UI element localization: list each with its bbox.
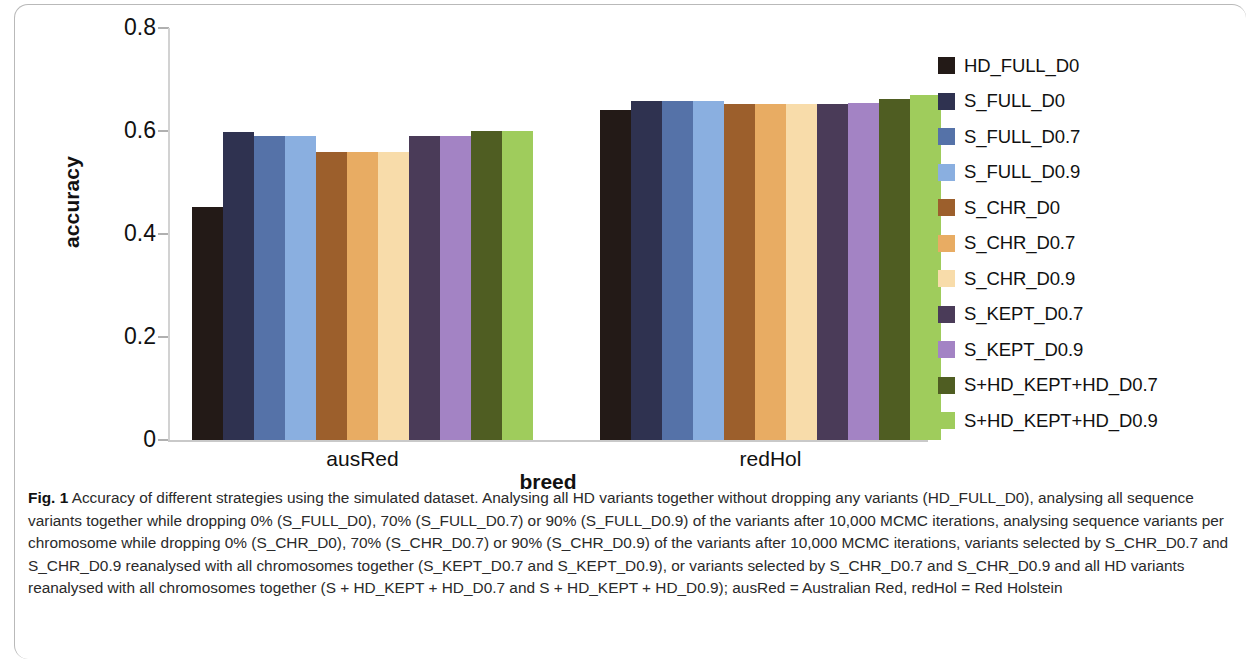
figure-number: Fig. 1 — [28, 489, 68, 506]
bar — [662, 101, 693, 440]
figure-caption-text: Accuracy of different strategies using t… — [28, 489, 1228, 596]
legend-label: S_FULL_D0.9 — [964, 161, 1080, 183]
legend-swatch-icon — [938, 306, 955, 323]
bar — [316, 152, 347, 440]
legend-item: S_KEPT_D0.9 — [938, 332, 1238, 368]
legend-swatch-icon — [938, 164, 955, 181]
chart-legend: HD_FULL_D0S_FULL_D0S_FULL_D0.7S_FULL_D0.… — [938, 48, 1238, 439]
y-axis-tick-label: 0 — [84, 428, 156, 451]
legend-item: S_CHR_D0 — [938, 190, 1238, 226]
y-axis-tick-label: 0.2 — [84, 325, 156, 348]
bar-group-redHol — [600, 28, 941, 440]
legend-swatch-icon — [938, 128, 955, 145]
figure-caption: Fig. 1 Accuracy of different strategies … — [28, 487, 1233, 600]
bar — [786, 104, 817, 440]
bar — [693, 101, 724, 440]
legend-label: S_KEPT_D0.7 — [964, 303, 1083, 325]
y-axis-tick-labels: 00.20.40.60.8 — [78, 0, 156, 486]
x-axis-category-label: ausRed — [192, 447, 533, 471]
bar — [409, 136, 440, 440]
legend-label: HD_FULL_D0 — [964, 55, 1079, 77]
bar — [378, 152, 409, 440]
bar — [631, 101, 662, 440]
legend-label: S+HD_KEPT+HD_D0.9 — [964, 410, 1158, 432]
bar — [817, 104, 848, 440]
y-axis-tick-label: 0.4 — [84, 222, 156, 245]
legend-item: S_CHR_D0.9 — [938, 261, 1238, 297]
legend-item: S+HD_KEPT+HD_D0.7 — [938, 368, 1238, 404]
legend-item: S_KEPT_D0.7 — [938, 297, 1238, 333]
legend-swatch-icon — [938, 93, 955, 110]
legend-item: S_FULL_D0.9 — [938, 155, 1238, 191]
bar — [254, 136, 285, 440]
legend-swatch-icon — [938, 377, 955, 394]
bar — [879, 99, 910, 440]
legend-label: S+HD_KEPT+HD_D0.7 — [964, 374, 1158, 396]
legend-item: S_FULL_D0 — [938, 84, 1238, 120]
bar-chart: accuracy 00.20.40.60.8 ausRedredHol bree… — [0, 0, 1250, 486]
legend-swatch-icon — [938, 235, 955, 252]
bar — [600, 110, 631, 440]
legend-item: S_FULL_D0.7 — [938, 119, 1238, 155]
legend-label: S_CHR_D0.9 — [964, 268, 1075, 290]
bar — [285, 136, 316, 440]
legend-item: HD_FULL_D0 — [938, 48, 1238, 84]
legend-item: S_CHR_D0.7 — [938, 226, 1238, 262]
bar — [755, 104, 786, 440]
bar — [502, 131, 533, 440]
bar — [471, 131, 502, 440]
bar — [440, 136, 471, 440]
bar — [223, 132, 254, 440]
legend-swatch-icon — [938, 57, 955, 74]
legend-label: S_FULL_D0.7 — [964, 126, 1080, 148]
legend-swatch-icon — [938, 341, 955, 358]
legend-label: S_KEPT_D0.9 — [964, 339, 1083, 361]
y-axis-tick-label: 0.8 — [84, 16, 156, 39]
legend-label: S_CHR_D0.7 — [964, 232, 1075, 254]
legend-label: S_CHR_D0 — [964, 197, 1060, 219]
x-axis-category-label: redHol — [600, 447, 941, 471]
legend-swatch-icon — [938, 412, 955, 429]
bar — [192, 207, 223, 440]
bar — [910, 95, 941, 440]
bar — [848, 103, 879, 440]
bar — [347, 152, 378, 440]
bar-group-ausRed — [192, 28, 533, 440]
legend-swatch-icon — [938, 199, 955, 216]
x-axis-line — [168, 440, 928, 442]
legend-swatch-icon — [938, 270, 955, 287]
legend-item: S+HD_KEPT+HD_D0.9 — [938, 403, 1238, 439]
legend-label: S_FULL_D0 — [964, 90, 1065, 112]
plot-canvas — [170, 28, 926, 440]
y-axis-tick-label: 0.6 — [84, 119, 156, 142]
bar — [724, 104, 755, 440]
